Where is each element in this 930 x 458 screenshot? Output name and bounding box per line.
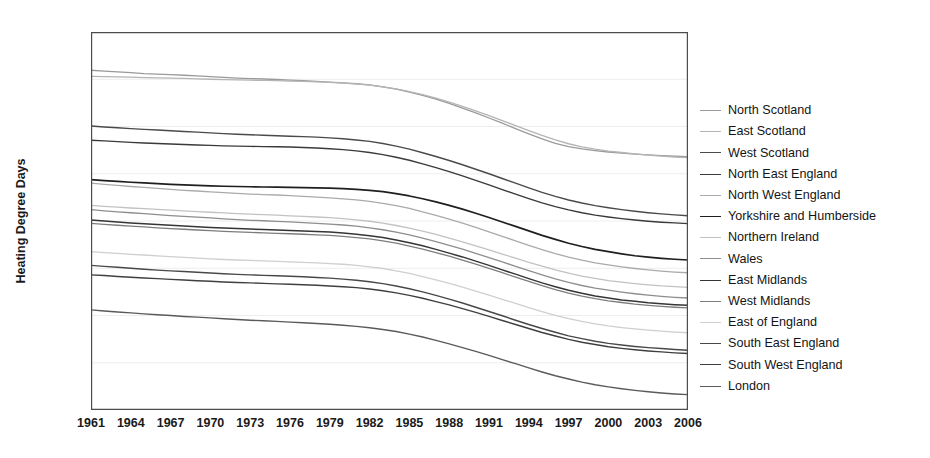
legend-item[interactable]: South West England (700, 354, 928, 375)
legend-item-label: North East England (728, 168, 837, 181)
y-axis-tick-labels: 180020002200240026002800300032003400 (0, 0, 87, 458)
legend-item-label: North Scotland (728, 104, 811, 117)
legend-swatch-line-icon (700, 131, 721, 132)
legend-item-label: Northern Ireland (728, 231, 819, 244)
plot-area (91, 32, 688, 410)
legend-item-label: London (728, 380, 770, 393)
x-axis-tick-label: 2000 (594, 416, 622, 430)
x-axis-tick-label: 2003 (634, 416, 662, 430)
series-line (91, 310, 688, 395)
legend-swatch-line-icon (700, 280, 721, 281)
series-line (91, 126, 688, 216)
legend-item[interactable]: East Midlands (700, 270, 928, 291)
legend-item-label: Wales (728, 253, 763, 266)
legend-item[interactable]: Yorkshire and Humberside (700, 206, 928, 227)
legend-swatch-line-icon (700, 110, 721, 111)
legend-item-label: East Midlands (728, 274, 807, 287)
legend-item[interactable]: London (700, 375, 928, 396)
series-line (91, 223, 688, 308)
legend-item-label: East of England (728, 316, 817, 329)
legend-swatch-line-icon (700, 216, 721, 217)
series-line (91, 205, 688, 287)
x-axis-tick-label: 1961 (77, 416, 105, 430)
legend-item-label: Yorkshire and Humberside (728, 210, 876, 223)
legend: North ScotlandEast ScotlandWest Scotland… (700, 100, 928, 397)
x-axis-tick-label: 1985 (395, 416, 423, 430)
x-axis-tick-labels: 1961196419671970197319761979198219851988… (0, 416, 930, 440)
series-line (91, 183, 688, 273)
legend-item[interactable]: North East England (700, 164, 928, 185)
legend-swatch-line-icon (700, 322, 721, 323)
legend-swatch-line-icon (700, 195, 721, 196)
x-axis-tick-label: 1988 (435, 416, 463, 430)
legend-item[interactable]: North West England (700, 185, 928, 206)
x-axis-tick-label: 2006 (674, 416, 702, 430)
x-axis-tick-label: 1994 (515, 416, 543, 430)
legend-swatch-line-icon (700, 364, 721, 365)
legend-item[interactable]: West Midlands (700, 291, 928, 312)
legend-swatch-line-icon (700, 343, 721, 344)
legend-item-label: South East England (728, 337, 839, 350)
legend-item-label: South West England (728, 359, 843, 372)
x-axis-tick-label: 1991 (475, 416, 503, 430)
legend-item[interactable]: East Scotland (700, 121, 928, 142)
x-axis-tick-label: 1970 (196, 416, 224, 430)
legend-item-label: North West England (728, 189, 840, 202)
x-axis-tick-label: 1979 (316, 416, 344, 430)
series-line (91, 265, 688, 350)
x-axis-tick-label: 1997 (555, 416, 583, 430)
x-axis-tick-label: 1967 (157, 416, 185, 430)
legend-item[interactable]: West Scotland (700, 142, 928, 163)
legend-item[interactable]: Northern Ireland (700, 227, 928, 248)
x-axis-tick-label: 1973 (236, 416, 264, 430)
legend-swatch-line-icon (700, 386, 721, 387)
legend-item-label: West Midlands (728, 295, 810, 308)
gridlines (91, 32, 688, 363)
legend-item-label: East Scotland (728, 125, 806, 138)
x-axis-tick-label: 1976 (276, 416, 304, 430)
plot-svg (91, 32, 688, 410)
legend-item[interactable]: South East England (700, 333, 928, 354)
legend-swatch-line-icon (700, 152, 721, 153)
x-axis-tick-label: 1964 (117, 416, 145, 430)
series-lines (91, 70, 688, 394)
legend-swatch-line-icon (700, 258, 721, 259)
legend-item[interactable]: North Scotland (700, 100, 928, 121)
x-axis-tick-label: 1982 (356, 416, 384, 430)
series-line (91, 180, 688, 260)
legend-swatch-line-icon (700, 301, 721, 302)
legend-item-label: West Scotland (728, 147, 809, 160)
legend-swatch-line-icon (700, 174, 721, 175)
legend-item[interactable]: Wales (700, 248, 928, 269)
legend-swatch-line-icon (700, 237, 721, 238)
chart-root: Heating Degree Days 18002000220024002600… (0, 0, 930, 458)
legend-item[interactable]: East of England (700, 312, 928, 333)
